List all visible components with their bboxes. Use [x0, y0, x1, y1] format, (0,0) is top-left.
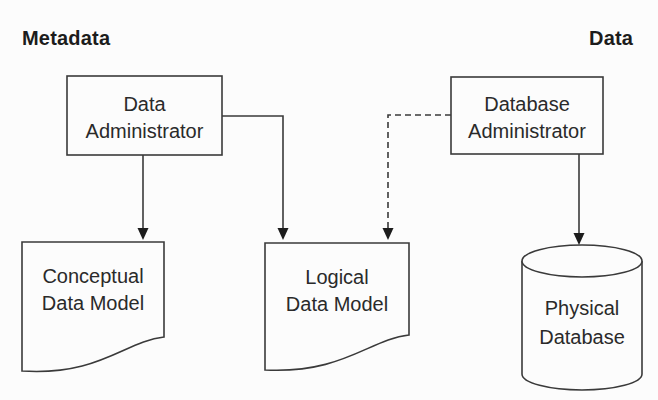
- arrowhead-dba-to-logical: [383, 228, 394, 240]
- arrowhead-dba-to-physical: [574, 233, 585, 245]
- physical-database-cylinder-top: [522, 245, 642, 277]
- conceptual-data-model-label-line1: Conceptual: [42, 263, 143, 290]
- data-administrator-label-line2: Administrator: [86, 118, 204, 145]
- data-administrator-label-line1: Data: [123, 91, 165, 118]
- metadata-section-label: Metadata: [22, 27, 110, 50]
- data-administrator-label: Data Administrator: [67, 78, 222, 157]
- database-administrator-label-line1: Database: [484, 91, 570, 118]
- conceptual-data-model-label-line2: Data Model: [42, 290, 144, 317]
- database-administrator-label: Database Administrator: [451, 79, 603, 156]
- physical-database-label-line2: Database: [539, 323, 625, 352]
- logical-data-model-label: Logical Data Model: [265, 264, 409, 318]
- arrowhead-da-to-logical: [278, 228, 289, 240]
- data-section-label: Data: [589, 27, 633, 50]
- connector-dba-to-logical-dashed: [388, 115, 451, 229]
- conceptual-data-model-label: Conceptual Data Model: [22, 263, 164, 317]
- arrowhead-da-to-conceptual: [138, 228, 149, 240]
- physical-database-label-line1: Physical: [545, 294, 619, 323]
- diagram-canvas: Metadata Data Data Administrator Databas…: [0, 0, 658, 400]
- physical-database-label: Physical Database: [522, 294, 642, 352]
- logical-data-model-label-line1: Logical: [305, 264, 368, 291]
- database-administrator-label-line2: Administrator: [468, 118, 586, 145]
- connector-da-to-logical: [222, 116, 283, 229]
- logical-data-model-label-line2: Data Model: [286, 291, 388, 318]
